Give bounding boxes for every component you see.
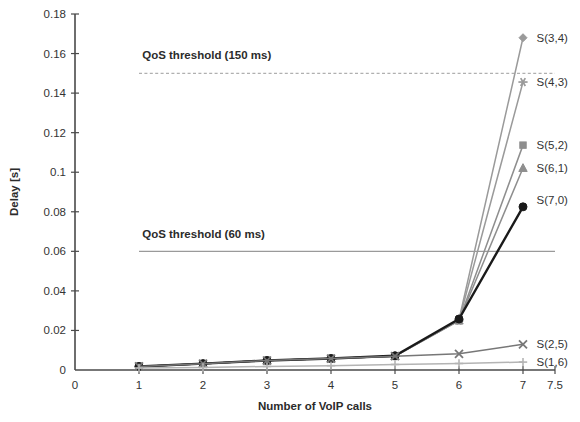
x-tick-label-4: 4 [328, 379, 335, 391]
x-tick-label-8: 7.5 [547, 379, 563, 391]
marker-plus [519, 358, 527, 366]
y-tick-label-5: 0.1 [50, 166, 66, 178]
series-label-S(5,2): S(5,2) [537, 139, 568, 151]
series-S(5,2): S(5,2) [136, 139, 568, 370]
marker-square [520, 142, 526, 148]
y-tick-label-4: 0.08 [44, 206, 66, 218]
series-S(4,3): S(4,3) [134, 76, 568, 370]
marker-circle [519, 203, 527, 211]
y-tick-label-1: 0.02 [44, 324, 66, 336]
y-tick-label-2: 0.04 [44, 285, 67, 297]
y-axis-ticks: 00.020.040.060.080.10.120.140.160.18 [44, 8, 79, 376]
series-line-S(6,1) [139, 168, 523, 366]
series-S(7,0): S(7,0) [135, 194, 568, 371]
qos-threshold-150: QoS threshold (150 ms) [139, 49, 555, 73]
marker-plus [391, 360, 399, 368]
x-tick-label-7: 7 [520, 379, 526, 391]
series-label-S(1,6): S(1,6) [537, 356, 568, 368]
x-tick-label-3: 3 [264, 379, 270, 391]
x-tick-label-1: 1 [136, 379, 142, 391]
axes [75, 14, 555, 370]
x-tick-label-6: 6 [456, 379, 462, 391]
marker-triangle [519, 164, 527, 172]
y-tick-label-8: 0.16 [44, 48, 66, 60]
y-axis-title: Delay [s] [8, 168, 20, 216]
series-label-S(2,5): S(2,5) [537, 338, 568, 350]
y-tick-label-3: 0.06 [44, 245, 66, 257]
series-label-S(6,1): S(6,1) [537, 162, 568, 174]
series-label-S(7,0): S(7,0) [537, 194, 568, 206]
y-tick-label-9: 0.18 [44, 8, 66, 20]
chart-canvas: 00.020.040.060.080.10.120.140.160.180123… [0, 0, 580, 422]
x-tick-label-5: 5 [392, 379, 398, 391]
marker-plus [455, 359, 463, 367]
series-line-S(5,2) [139, 145, 523, 366]
marker-plus [327, 361, 335, 369]
delay-vs-voip-calls-chart: 00.020.040.060.080.10.120.140.160.180123… [0, 0, 580, 422]
series-label-S(4,3): S(4,3) [537, 76, 568, 88]
y-tick-label-7: 0.14 [44, 87, 67, 99]
marker-diamond [519, 34, 527, 42]
y-tick-label-0: 0 [60, 364, 66, 376]
x-axis-title: Number of VoIP calls [258, 400, 372, 412]
series-line-S(4,3) [139, 82, 523, 366]
y-tick-label-6: 0.12 [44, 127, 66, 139]
marker-circle [455, 315, 463, 323]
x-tick-label-2: 2 [200, 379, 206, 391]
x-tick-label-0: 0 [72, 379, 78, 391]
series-label-S(3,4): S(3,4) [537, 32, 568, 44]
qos-threshold-150-label: QoS threshold (150 ms) [142, 49, 271, 61]
series-S(6,1): S(6,1) [135, 162, 568, 370]
series-line-S(3,4) [139, 38, 523, 367]
qos-threshold-60-label: QoS threshold (60 ms) [142, 228, 265, 240]
